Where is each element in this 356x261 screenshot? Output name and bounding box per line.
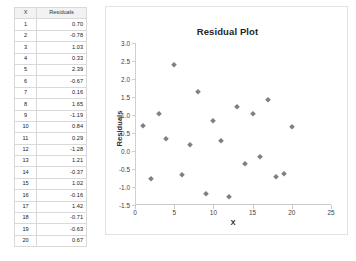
data-point xyxy=(226,194,232,200)
column-header-residuals: Residuals xyxy=(37,8,87,19)
y-tick-label: 2.5 xyxy=(121,58,130,65)
y-tick-label: -1.5 xyxy=(119,202,130,209)
cell-x: 17 xyxy=(15,201,37,212)
cell-residual: 1.02 xyxy=(37,178,87,189)
table-row: 12-1.28 xyxy=(15,144,87,155)
table-row: 151.02 xyxy=(15,178,87,189)
data-point xyxy=(148,176,154,182)
column-header-x: X xyxy=(15,8,37,19)
cell-residual: 0.70 xyxy=(37,19,87,30)
cell-residual: 1.03 xyxy=(37,42,87,53)
data-point xyxy=(265,97,271,103)
cell-x: 2 xyxy=(15,30,37,41)
data-point xyxy=(273,173,279,179)
table-row: 40.33 xyxy=(15,53,87,64)
y-tick-label: 2.0 xyxy=(121,76,130,83)
data-point xyxy=(257,154,263,160)
table-row: 70.16 xyxy=(15,87,87,98)
x-tick xyxy=(213,205,214,209)
y-tick-label: 1.5 xyxy=(121,94,130,101)
data-point xyxy=(195,88,201,94)
table: X Residuals 10.702-0.7831.0340.3352.396-… xyxy=(14,7,87,247)
data-point xyxy=(202,191,208,197)
y-tick xyxy=(132,43,136,44)
table-row: 16-0.16 xyxy=(15,190,87,201)
x-tick-label: 5 xyxy=(172,209,176,216)
x-tick xyxy=(174,205,175,209)
y-tick xyxy=(132,97,136,98)
cell-x: 7 xyxy=(15,87,37,98)
x-axis-title: X xyxy=(135,218,331,227)
cell-x: 12 xyxy=(15,144,37,155)
data-point xyxy=(187,142,193,148)
cell-residual: -1.19 xyxy=(37,110,87,121)
x-axis-line xyxy=(135,204,331,205)
y-tick-label: 3.0 xyxy=(121,40,130,47)
table-row: 110.29 xyxy=(15,133,87,144)
cell-x: 6 xyxy=(15,76,37,87)
data-point xyxy=(234,104,240,110)
data-point xyxy=(218,137,224,143)
table-row: 6-0.67 xyxy=(15,76,87,87)
cell-x: 19 xyxy=(15,224,37,235)
table-header: X Residuals xyxy=(15,8,87,19)
cell-x: 18 xyxy=(15,213,37,224)
table-row: 19-0.63 xyxy=(15,224,87,235)
table-row: 131.21 xyxy=(15,156,87,167)
cell-x: 3 xyxy=(15,42,37,53)
x-tick-label: 15 xyxy=(249,209,256,216)
cell-x: 4 xyxy=(15,53,37,64)
data-point xyxy=(179,172,185,178)
data-point xyxy=(249,111,255,117)
data-point xyxy=(155,111,161,117)
y-tick-label: 1.0 xyxy=(121,112,130,119)
cell-residual: 0.67 xyxy=(37,235,87,246)
table-body: 10.702-0.7831.0340.3352.396-0.6770.1681.… xyxy=(15,19,87,247)
table-row: 81.65 xyxy=(15,99,87,110)
x-tick-label: 10 xyxy=(210,209,217,216)
cell-residual: -0.16 xyxy=(37,190,87,201)
data-point xyxy=(140,123,146,129)
cell-x: 15 xyxy=(15,178,37,189)
cell-x: 9 xyxy=(15,110,37,121)
x-tick-label: 0 xyxy=(133,209,137,216)
x-tick xyxy=(135,205,136,209)
cell-residual: -0.63 xyxy=(37,224,87,235)
cell-residual: 0.84 xyxy=(37,121,87,132)
y-tick xyxy=(132,187,136,188)
x-tick-label: 25 xyxy=(327,209,334,216)
cell-x: 10 xyxy=(15,121,37,132)
data-point xyxy=(171,62,177,68)
y-tick xyxy=(132,151,136,152)
cell-residual: 0.29 xyxy=(37,133,87,144)
x-tick xyxy=(253,205,254,209)
residual-plot-chart: Residual Plot Residuals X -1.5-1.0-0.50.… xyxy=(105,6,348,235)
cell-x: 14 xyxy=(15,167,37,178)
y-tick xyxy=(132,61,136,62)
cell-x: 8 xyxy=(15,99,37,110)
cell-x: 11 xyxy=(15,133,37,144)
cell-residual: 2.39 xyxy=(37,64,87,75)
table-row: 200.67 xyxy=(15,235,87,246)
y-tick-label: 0.0 xyxy=(121,148,130,155)
plot-area: -1.5-1.0-0.50.00.51.01.52.02.53.0 051015… xyxy=(135,43,331,205)
table-row: 171.42 xyxy=(15,201,87,212)
table-row: 2-0.78 xyxy=(15,30,87,41)
cell-residual: -0.78 xyxy=(37,30,87,41)
cell-x: 1 xyxy=(15,19,37,30)
cell-residual: 1.42 xyxy=(37,201,87,212)
data-point xyxy=(163,136,169,142)
table-row: 10.70 xyxy=(15,19,87,30)
cell-residual: -0.71 xyxy=(37,213,87,224)
y-tick xyxy=(132,79,136,80)
residuals-data-table: X Residuals 10.702-0.7831.0340.3352.396-… xyxy=(14,7,86,247)
cell-residual: 1.65 xyxy=(37,99,87,110)
x-tick-label: 20 xyxy=(288,209,295,216)
table-row: 14-0.37 xyxy=(15,167,87,178)
y-tick xyxy=(132,169,136,170)
x-tick xyxy=(331,205,332,209)
cell-x: 20 xyxy=(15,235,37,246)
y-tick-label: -1.0 xyxy=(119,184,130,191)
cell-residual: -1.28 xyxy=(37,144,87,155)
table-row: 100.84 xyxy=(15,121,87,132)
